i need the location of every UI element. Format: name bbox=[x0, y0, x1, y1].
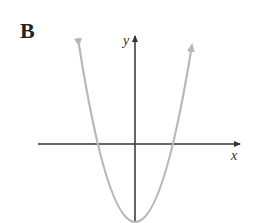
y-axis-label: y bbox=[121, 33, 130, 48]
x-axis-label: x bbox=[230, 148, 238, 163]
graph: y x bbox=[0, 0, 259, 223]
